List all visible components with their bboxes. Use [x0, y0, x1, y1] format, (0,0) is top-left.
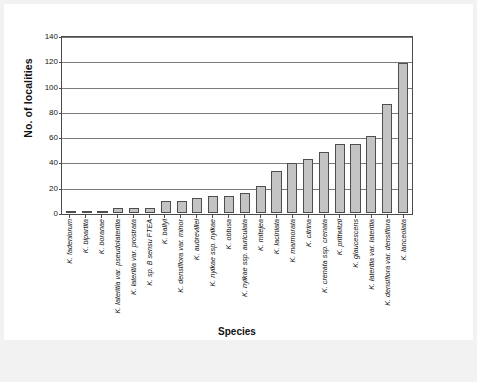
- x-axis-tick-label: K. laciniata: [273, 219, 280, 254]
- x-axis-label-slot: K. lanceolata: [396, 219, 410, 319]
- y-axis-tickmark: [59, 37, 62, 38]
- bar-slot: [284, 38, 300, 213]
- x-axis-label-slot: K. fadeniorum: [62, 219, 76, 319]
- x-axis-tickmark: [276, 215, 277, 218]
- bar-slot: [237, 38, 253, 213]
- bar-slot: [126, 38, 142, 213]
- y-axis-tick-label: 80: [22, 108, 58, 117]
- x-axis-tickmark: [244, 215, 245, 218]
- x-axis-tickmark: [149, 215, 150, 218]
- bar-slot: [158, 38, 174, 213]
- y-axis-tick-label: 60: [22, 133, 58, 142]
- x-axis-tickmark: [308, 215, 309, 218]
- x-axis-tick-label: K. mitejea: [257, 219, 264, 251]
- bar-slot: [63, 38, 79, 213]
- x-axis-label-slot: K. bipartita: [78, 219, 92, 319]
- x-axis-label-slot: K. boranae: [94, 219, 108, 319]
- x-axis-tick-label: K. prittwitzii: [336, 219, 343, 255]
- bar-slot: [221, 38, 237, 213]
- x-axis-tick-label: K. nyikae ssp. auriculata: [241, 219, 248, 297]
- bar: [256, 186, 266, 214]
- bar-slot: [95, 38, 111, 213]
- x-axis-label-slot: K. crenata ssp. crenata: [317, 219, 331, 319]
- x-axis-label-slot: K. lateritia var. prostrata: [126, 219, 140, 319]
- bar: [145, 208, 155, 213]
- x-axis-tickmark: [212, 215, 213, 218]
- bar: [398, 63, 408, 213]
- x-axis-tick-label: K. crenata ssp. crenata: [321, 219, 328, 293]
- x-axis-label-slot: K. obtusa: [221, 219, 235, 319]
- bar: [129, 208, 139, 213]
- x-axis-tickmark: [228, 215, 229, 218]
- y-axis-tick-label: 20: [22, 184, 58, 193]
- x-axis-tick-label: K. marmorata: [289, 219, 296, 263]
- x-axis-tickmark: [260, 215, 261, 218]
- x-axis-tick-label: K. citrina: [305, 219, 312, 247]
- x-axis-tickmark: [371, 215, 372, 218]
- plot-area: 020406080100120140: [61, 36, 413, 215]
- x-axis-label-slot: K. citrina: [301, 219, 315, 319]
- bar: [208, 196, 218, 214]
- x-axis-tick-label: K. aubrevillei: [193, 219, 200, 260]
- bar: [82, 211, 92, 213]
- x-axis-tickmark: [85, 215, 86, 218]
- x-axis-tickmark: [403, 215, 404, 218]
- y-axis-tick-label: 0: [22, 209, 58, 218]
- y-axis-tick-label: 120: [22, 57, 58, 66]
- bar: [350, 144, 360, 213]
- bar-slot: [253, 38, 269, 213]
- y-axis-tickmark: [59, 138, 62, 139]
- x-axis-label-slot: K. laciniata: [269, 219, 283, 319]
- x-axis-tick-label: K. densiflora var. minor: [177, 219, 184, 293]
- x-axis-label-slot: K. densiflora var. densiflora: [380, 219, 394, 319]
- bar: [240, 193, 250, 213]
- x-axis-tick-label: K. boranae: [98, 219, 105, 254]
- x-axis-label-slot: K. ballyi: [157, 219, 171, 319]
- x-axis-label-slot: K. nyikae ssp. auriculata: [237, 219, 251, 319]
- bar-slot: [174, 38, 190, 213]
- bar: [287, 163, 297, 213]
- x-axis-label-slot: K. marmorata: [285, 219, 299, 319]
- y-axis-title: No. of localities: [22, 28, 34, 168]
- x-axis-tick-label: K. densiflora var. densiflora: [384, 219, 391, 306]
- x-axis-tickmark: [180, 215, 181, 218]
- x-axis-tick-label: K. sp. B sensu FTEA: [146, 219, 153, 286]
- y-axis-tickmark: [59, 88, 62, 89]
- bar: [161, 201, 171, 214]
- bar: [366, 136, 376, 214]
- bar: [177, 201, 187, 214]
- x-axis-tickmark: [101, 215, 102, 218]
- x-axis-tickmark: [69, 215, 70, 218]
- bar-slot: [332, 38, 348, 213]
- bar: [192, 198, 202, 213]
- y-axis-tick-label: 40: [22, 158, 58, 167]
- bar: [303, 159, 313, 213]
- x-axis-tick-label: K. lateritia var. prostrata: [130, 219, 137, 295]
- x-axis-tickmark: [387, 215, 388, 218]
- x-axis-labels: K. fadeniorumK. bipartitaK. boranaeK. la…: [61, 219, 413, 319]
- x-axis-tick-label: K. ballyi: [161, 219, 168, 244]
- x-axis-title: Species: [61, 326, 413, 337]
- x-axis-tickmark: [292, 215, 293, 218]
- x-axis-tickmark: [164, 215, 165, 218]
- x-axis-tick-label: K. lateritia var. lateritia: [368, 219, 375, 290]
- y-axis-tickmark: [59, 163, 62, 164]
- x-axis-label-slot: K. mitejea: [253, 219, 267, 319]
- bar-slot: [379, 38, 395, 213]
- bar-slot: [316, 38, 332, 213]
- x-axis-label-slot: K. densiflora var. minor: [173, 219, 187, 319]
- x-axis-label-slot: K. nyikae ssp. nyikae: [205, 219, 219, 319]
- chart-figure: No. of localities 020406080100120140 K. …: [4, 4, 473, 340]
- bar-slot: [190, 38, 206, 213]
- bar-series: [63, 38, 411, 213]
- y-axis-tickmark: [59, 189, 62, 190]
- bar: [382, 104, 392, 213]
- x-axis-tick-label: K. fadeniorum: [66, 219, 73, 264]
- y-axis-tick-label: 100: [22, 83, 58, 92]
- x-axis-label-slot: K. prittwitzii: [332, 219, 346, 319]
- x-axis-tick-label: K. lanceolata: [400, 219, 407, 261]
- x-axis-label-slot: K. glaucescens: [348, 219, 362, 319]
- bar-slot: [300, 38, 316, 213]
- x-axis-tick-label: K. lateritia var. pseudolateritia: [114, 219, 121, 313]
- bar: [335, 144, 345, 213]
